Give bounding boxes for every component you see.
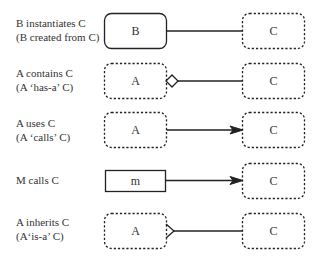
box-label: A: [131, 74, 140, 88]
class-box-a: A: [105, 64, 167, 99]
aggregation-diamond-icon: [166, 75, 178, 87]
inheritance-triangle-icon: [166, 224, 174, 238]
row-uses: A C: [105, 113, 305, 148]
box-label: C: [269, 224, 277, 238]
box-label: B: [131, 24, 139, 38]
box-label: C: [269, 123, 277, 137]
class-box-b: B: [105, 14, 167, 49]
row-method-calls: m C: [106, 164, 305, 199]
class-box-a: A: [105, 113, 167, 148]
class-box-c: C: [243, 164, 305, 199]
box-label: C: [269, 174, 277, 188]
class-box-c: C: [243, 64, 305, 99]
relationship-diagram: B C A C A C: [0, 0, 320, 261]
method-box-m: m: [106, 171, 166, 192]
class-box-a: A: [105, 214, 167, 249]
row-inherits: A C: [105, 214, 305, 249]
row-contains: A C: [105, 64, 305, 99]
class-box-c: C: [243, 214, 305, 249]
class-box-c: C: [243, 14, 305, 49]
box-label: m: [131, 174, 141, 188]
box-label: C: [269, 74, 277, 88]
box-label: A: [131, 224, 140, 238]
row-instantiates: B C: [105, 14, 305, 49]
box-label: C: [269, 24, 277, 38]
class-box-c: C: [243, 113, 305, 148]
box-label: A: [131, 123, 140, 137]
